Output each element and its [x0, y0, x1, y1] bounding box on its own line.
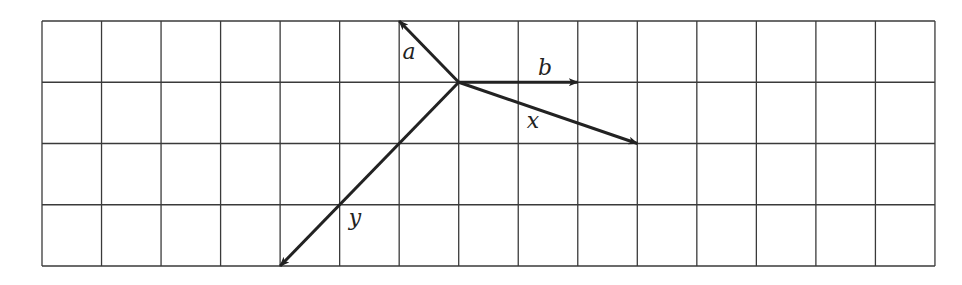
vector-a-label: a [402, 39, 415, 64]
vector-b-label: b [538, 55, 552, 80]
vector-diagram: abxy [0, 0, 962, 285]
vector-x-label: x [527, 108, 540, 133]
vector-labels: abxy [348, 39, 552, 230]
vector-y-label: y [348, 205, 362, 230]
vector-x-arrow [459, 82, 638, 143]
grid [42, 21, 935, 266]
vector-y-arrow [280, 82, 459, 266]
